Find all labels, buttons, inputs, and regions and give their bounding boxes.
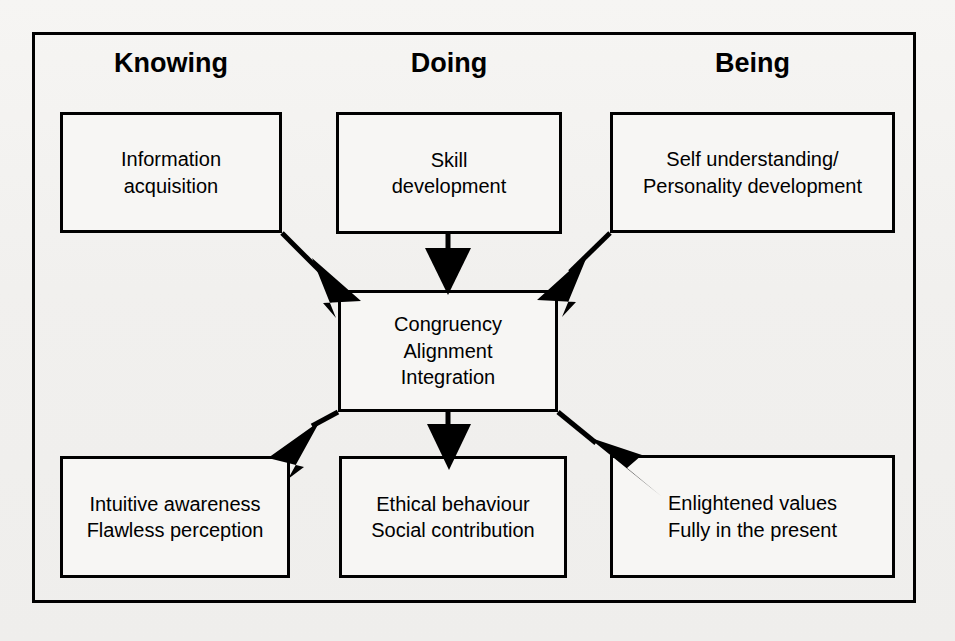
node-self-understanding-label: Self understanding/ Personality developm…	[637, 146, 868, 199]
column-heading-doing: Doing	[336, 48, 562, 79]
node-congruency: Congruency Alignment Integration	[338, 290, 558, 412]
node-self-understanding: Self understanding/ Personality developm…	[610, 112, 895, 233]
node-information-acquisition: Information acquisition	[60, 112, 282, 233]
node-enlightened-values: Enlightened values Fully in the present	[610, 455, 895, 578]
node-skill-development: Skill development	[336, 112, 562, 234]
node-skill-development-label: Skill development	[386, 147, 513, 200]
node-intuitive-awareness-label: Intuitive awareness Flawless perception	[81, 491, 270, 544]
node-ethical-behaviour: Ethical behaviour Social contribution	[339, 456, 567, 578]
diagram-canvas: Knowing Doing Being Information acquisit…	[0, 0, 955, 641]
node-ethical-behaviour-label: Ethical behaviour Social contribution	[365, 491, 540, 544]
node-congruency-label: Congruency Alignment Integration	[388, 311, 508, 390]
column-heading-knowing: Knowing	[60, 48, 282, 79]
column-heading-being: Being	[610, 48, 895, 79]
node-intuitive-awareness: Intuitive awareness Flawless perception	[60, 456, 290, 578]
node-information-acquisition-label: Information acquisition	[115, 146, 227, 199]
node-enlightened-values-label: Enlightened values Fully in the present	[662, 490, 843, 543]
